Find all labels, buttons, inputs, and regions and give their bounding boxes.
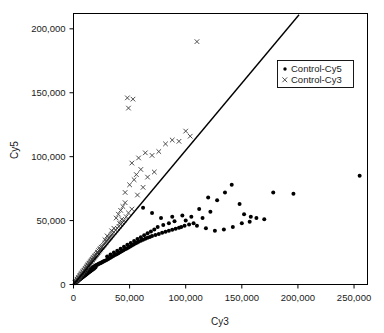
data-point-dot — [152, 228, 156, 232]
data-point-dot — [213, 229, 217, 233]
data-point-dot — [271, 190, 275, 194]
y-tick-label: 50,000 — [36, 215, 65, 226]
data-point-dot — [248, 220, 252, 224]
data-point-dot — [167, 229, 171, 233]
x-axis-title: Cy3 — [211, 316, 229, 327]
data-point-dot — [129, 241, 133, 245]
data-point-dot — [157, 232, 161, 236]
data-point-dot — [146, 231, 150, 235]
x-tick-label: 250,000 — [337, 292, 371, 303]
data-point-dot — [167, 221, 171, 225]
data-point-dot — [358, 174, 362, 178]
data-point-dot — [122, 245, 126, 249]
data-point-dot — [170, 228, 174, 232]
data-point-dot — [172, 219, 176, 223]
data-point-dot — [206, 196, 210, 200]
data-point-dot — [164, 230, 168, 234]
data-point-dot — [132, 239, 136, 243]
legend-label-cy3: Control-Cy3 — [291, 74, 342, 85]
data-point-dot — [230, 183, 234, 187]
data-point-dot — [222, 228, 226, 232]
x-tick-label: 200,000 — [281, 292, 315, 303]
data-point-dot — [91, 267, 95, 271]
data-point-dot — [119, 247, 123, 251]
data-point-dot — [149, 229, 153, 233]
y-tick-label: 100,000 — [31, 151, 65, 162]
x-tick-label: 100,000 — [169, 292, 203, 303]
data-point-dot — [105, 254, 109, 258]
data-point-dot — [150, 211, 154, 215]
chart-background — [0, 0, 384, 333]
data-point-dot — [174, 227, 178, 231]
data-point-dot — [153, 233, 157, 237]
data-point-dot — [142, 233, 146, 237]
x-tick-label: 150,000 — [225, 292, 259, 303]
legend-marker-dot — [283, 67, 286, 70]
data-point-dot — [135, 237, 139, 241]
y-tick-label: 0 — [60, 279, 65, 290]
data-point-dot — [254, 216, 258, 220]
data-point-dot — [231, 225, 235, 229]
data-point-dot — [170, 215, 174, 219]
data-point-dot — [262, 217, 266, 221]
data-point-dot — [187, 222, 191, 226]
data-point-dot — [160, 231, 164, 235]
data-point-dot — [109, 252, 113, 256]
data-point-dot — [215, 198, 219, 202]
data-point-dot — [291, 192, 295, 196]
data-point-dot — [112, 251, 116, 255]
data-point-dot — [204, 226, 208, 230]
data-point-dot — [197, 207, 201, 211]
data-point-dot — [238, 202, 242, 206]
chart-canvas: 050,000100,000150,000200,000250,000 050,… — [0, 0, 384, 333]
data-point-dot — [183, 224, 187, 228]
data-point-dot — [208, 210, 212, 214]
data-point-dot — [242, 212, 246, 216]
legend-label-cy5: Control-Cy5 — [291, 63, 342, 74]
x-tick-label: 50,000 — [115, 292, 144, 303]
chart-legend: Control-Cy5 Control-Cy3 — [278, 61, 354, 88]
y-tick-label: 200,000 — [31, 23, 65, 34]
data-point-dot — [141, 206, 145, 210]
data-point-dot — [125, 243, 129, 247]
data-point-dot — [201, 216, 205, 220]
data-point-dot — [115, 249, 119, 253]
y-axis-title: Cy5 — [9, 141, 20, 159]
data-point-dot — [189, 215, 193, 219]
x-tick-label: 0 — [71, 292, 76, 303]
data-point-dot — [159, 216, 163, 220]
data-point-dot — [161, 223, 165, 227]
data-point-dot — [192, 221, 196, 225]
data-point-dot — [156, 225, 160, 229]
data-point-dot — [139, 235, 143, 239]
data-point-dot — [180, 213, 184, 217]
data-point-dot — [240, 221, 244, 225]
data-point-dot — [249, 215, 253, 219]
data-point-dot — [195, 224, 199, 228]
data-point-dot — [184, 219, 188, 223]
data-point-dot — [223, 190, 227, 194]
data-point-dot — [150, 234, 154, 238]
scatter-chart-figure: 050,000100,000150,000200,000250,000 050,… — [0, 0, 384, 333]
y-tick-label: 150,000 — [31, 87, 65, 98]
